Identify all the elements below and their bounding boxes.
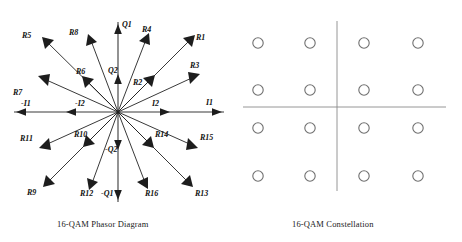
constellation-point [359,123,369,133]
axis-arrowhead-neg-i2 [66,108,76,116]
constellation-point [413,38,423,48]
label-r12: R12 [79,189,93,198]
label-axis-neg-q2: -Q2 [105,145,117,154]
axis-arrowhead-q2 [114,74,122,84]
arrowhead-r8 [86,34,97,46]
axis-arrowhead-i2 [160,108,170,116]
caption-phasor-diagram: 16-QAM Phasor Diagram [57,219,148,229]
label-r6: R6 [75,67,85,76]
constellation-point [305,171,315,181]
label-axis-neg-i2: -I2 [75,99,85,108]
constellation-point [253,171,263,181]
constellation-point [413,171,423,181]
vector-r6 [85,79,118,112]
vector-r10 [86,112,118,144]
vector-r14 [118,112,151,145]
constellation-point [253,85,263,95]
arrowhead-r11 [39,138,51,150]
label-r2: R2 [132,78,142,87]
label-r9: R9 [26,188,36,197]
label-r7: R7 [12,88,23,97]
label-r5: R5 [21,31,31,40]
constellation-points [253,38,423,181]
label-axis-q1: Q1 [122,20,132,29]
label-axis-i2: I2 [151,99,159,108]
constellation-point [359,38,369,48]
label-r8: R8 [68,28,78,37]
qam-figure: R1 R2 R3 R4 R5 R6 R7 R8 R9 R10 R11 R12 R… [0,0,462,242]
label-r16: R16 [144,189,158,198]
label-r11: R11 [19,134,33,143]
qam-figure-svg: R1 R2 R3 R4 R5 R6 R7 R8 R9 R10 R11 R12 R… [0,0,462,242]
label-r3: R3 [189,61,199,70]
constellation-diagram [243,21,446,191]
constellation-point [413,85,423,95]
constellation-point [253,123,263,133]
constellation-point [359,85,369,95]
label-r10: R10 [73,130,87,139]
caption-constellation: 16-QAM Constellation [292,219,374,229]
arrowhead-r16 [137,177,148,189]
constellation-point [305,85,315,95]
label-r1: R1 [195,33,205,42]
constellation-point [305,123,315,133]
label-r4: R4 [141,25,151,34]
label-axis-q2: Q2 [108,66,118,75]
constellation-point [359,171,369,181]
label-r13: R13 [194,189,208,198]
axis-arrowhead-i1 [212,108,222,116]
axis-arrowhead-neg-q1 [114,190,122,200]
axis-arrowhead-neg-i1 [16,108,26,116]
label-r15: R15 [199,133,213,142]
arrowhead-r7 [38,74,50,86]
label-axis-i1: I1 [205,98,213,107]
vector-r11 [43,112,118,146]
axis-arrowhead-q1 [114,24,122,34]
label-r14: R14 [154,130,168,139]
phasor-diagram: R1 R2 R3 R4 R5 R6 R7 R8 R9 R10 R11 R12 R… [12,20,224,202]
label-axis-neg-i1: -I1 [21,99,31,108]
constellation-point [305,38,315,48]
arrowhead-r15 [186,138,198,150]
constellation-point [413,123,423,133]
label-axis-neg-q1: -Q1 [101,189,113,198]
arrowhead-r3 [188,72,200,84]
constellation-point [253,38,263,48]
